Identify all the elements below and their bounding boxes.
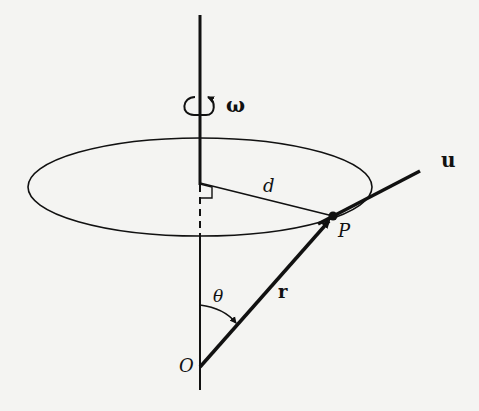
rotation-diagram: [0, 0, 479, 411]
distance-label-d: d: [263, 177, 275, 195]
point-P: [329, 212, 338, 221]
origin-label-O: O: [179, 357, 194, 375]
angle-theta-arc: [200, 305, 236, 323]
angle-label-theta: θ: [213, 288, 223, 305]
vector-label-r: r: [278, 283, 287, 301]
tangent-label-u: u: [441, 150, 456, 170]
omega-label: ω: [226, 95, 245, 115]
point-label-P: P: [338, 222, 350, 240]
